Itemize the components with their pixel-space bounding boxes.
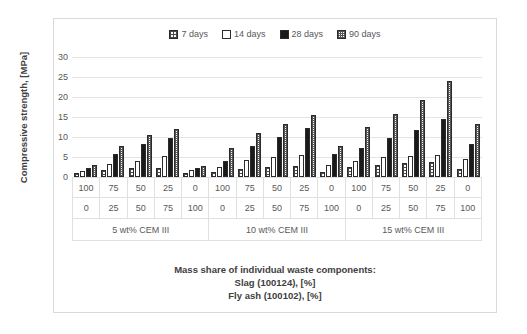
- cell-slag-14: 0: [455, 177, 482, 198]
- cell-flyash-4: 100: [182, 198, 209, 219]
- bar-14-days-12[interactable]: [408, 156, 413, 177]
- bar-series-container: [72, 57, 482, 177]
- y-axis-title: Compressive strength, [MPa]: [17, 52, 31, 182]
- cell-flyash-13: 75: [427, 198, 454, 219]
- bar-28-days-1[interactable]: [113, 154, 118, 177]
- y-tick-30: 30: [58, 52, 68, 62]
- chart-figure: 7 days 14 days 28 days 90 days Compressi…: [0, 0, 527, 334]
- bar-14-days-8[interactable]: [299, 155, 304, 177]
- legend-item-7-days[interactable]: 7 days: [169, 29, 208, 39]
- bar-14-days-2[interactable]: [135, 161, 140, 177]
- bar-90-days-5[interactable]: [229, 148, 234, 177]
- bar-group-0: [72, 57, 99, 177]
- legend-swatch-28-days: [280, 30, 289, 39]
- cell-flyash-3: 75: [155, 198, 182, 219]
- bar-14-days-3[interactable]: [162, 156, 167, 177]
- bar-group-4: [181, 57, 208, 177]
- bar-group-1: [99, 57, 126, 177]
- bar-28-days-11[interactable]: [387, 138, 392, 177]
- bar-28-days-2[interactable]: [141, 144, 146, 177]
- cell-flyash-8: 75: [291, 198, 318, 219]
- bar-14-days-14[interactable]: [463, 159, 468, 177]
- legend-item-90-days[interactable]: 90 days: [337, 29, 381, 39]
- bar-90-days-6[interactable]: [256, 133, 261, 177]
- cell-flyash-1: 25: [100, 198, 127, 219]
- bar-group-10: [345, 57, 372, 177]
- bar-group-2: [127, 57, 154, 177]
- bar-7-days-13[interactable]: [429, 162, 434, 177]
- bar-7-days-12[interactable]: [402, 163, 407, 177]
- bar-28-days-14[interactable]: [469, 144, 474, 177]
- bar-14-days-10[interactable]: [353, 161, 358, 177]
- cell-flyash-6: 25: [237, 198, 264, 219]
- bar-28-days-4[interactable]: [195, 168, 200, 177]
- bar-7-days-3[interactable]: [156, 168, 161, 177]
- bar-7-days-7[interactable]: [265, 167, 270, 177]
- x-axis-caption-line3: Fly ash (100102), [%]: [53, 289, 497, 302]
- legend-label-28-days: 28 days: [292, 29, 324, 39]
- bar-group-7: [263, 57, 290, 177]
- cell-flyash-14: 100: [455, 198, 482, 219]
- bar-28-days-13[interactable]: [441, 119, 446, 177]
- legend-swatch-7-days: [169, 30, 178, 39]
- bar-14-days-5[interactable]: [217, 167, 222, 177]
- y-tick-10: 10: [58, 132, 68, 142]
- cell-slag-6: 75: [237, 177, 264, 198]
- bar-14-days-4[interactable]: [189, 170, 194, 177]
- bar-28-days-10[interactable]: [359, 148, 364, 177]
- bar-7-days-6[interactable]: [238, 169, 243, 177]
- bar-14-days-6[interactable]: [244, 160, 249, 177]
- bar-28-days-5[interactable]: [223, 161, 228, 177]
- y-axis-ticks: 302520151050: [40, 50, 68, 184]
- cell-slag-3: 25: [155, 177, 182, 198]
- bar-90-days-14[interactable]: [475, 124, 480, 177]
- bar-28-days-8[interactable]: [305, 128, 310, 177]
- bar-14-days-13[interactable]: [435, 155, 440, 177]
- bar-group-14: [455, 57, 482, 177]
- cell-flyash-5: 0: [209, 198, 236, 219]
- y-tick-15: 15: [58, 112, 68, 122]
- bar-90-days-7[interactable]: [283, 124, 288, 177]
- bar-90-days-8[interactable]: [311, 115, 316, 177]
- bar-90-days-3[interactable]: [174, 129, 179, 177]
- bar-28-days-7[interactable]: [277, 137, 282, 177]
- chart-legend: 7 days 14 days 28 days 90 days: [53, 26, 497, 42]
- legend-item-28-days[interactable]: 28 days: [280, 29, 324, 39]
- bar-90-days-1[interactable]: [119, 146, 124, 177]
- bar-28-days-12[interactable]: [414, 130, 419, 177]
- group-label-2: 15 wt% CEM III: [346, 219, 482, 241]
- bar-90-days-11[interactable]: [393, 114, 398, 177]
- bar-7-days-14[interactable]: [457, 169, 462, 177]
- bar-group-12: [400, 57, 427, 177]
- bar-14-days-11[interactable]: [381, 157, 386, 177]
- cell-slag-11: 75: [373, 177, 400, 198]
- bar-28-days-3[interactable]: [168, 138, 173, 177]
- cell-slag-13: 25: [427, 177, 454, 198]
- bar-90-days-9[interactable]: [338, 146, 343, 177]
- cell-slag-12: 50: [400, 177, 427, 198]
- bar-90-days-2[interactable]: [147, 135, 152, 177]
- bar-7-days-10[interactable]: [347, 167, 352, 177]
- bar-28-days-6[interactable]: [250, 146, 255, 177]
- legend-item-14-days[interactable]: 14 days: [222, 29, 266, 39]
- bar-90-days-0[interactable]: [92, 165, 97, 177]
- bar-7-days-2[interactable]: [129, 168, 134, 177]
- cell-flyash-7: 50: [264, 198, 291, 219]
- cell-slag-0: 100: [72, 177, 100, 198]
- bar-90-days-12[interactable]: [420, 100, 425, 177]
- legend-label-90-days: 90 days: [349, 29, 381, 39]
- bar-28-days-9[interactable]: [332, 154, 337, 177]
- bar-90-days-4[interactable]: [201, 166, 206, 177]
- y-axis-title-text: Compressive strength, [MPa]: [19, 51, 30, 182]
- bar-28-days-0[interactable]: [86, 168, 91, 177]
- table-row-slag: 100755025010075502501007550250: [72, 177, 482, 198]
- bar-90-days-13[interactable]: [447, 81, 452, 177]
- bar-90-days-10[interactable]: [365, 127, 370, 177]
- bar-14-days-1[interactable]: [107, 164, 112, 177]
- bar-7-days-1[interactable]: [101, 170, 106, 177]
- bar-7-days-8[interactable]: [293, 166, 298, 177]
- group-label-0: 5 wt% CEM III: [72, 219, 209, 241]
- bar-14-days-7[interactable]: [271, 157, 276, 177]
- bar-7-days-11[interactable]: [375, 165, 380, 177]
- bar-14-days-9[interactable]: [326, 165, 331, 177]
